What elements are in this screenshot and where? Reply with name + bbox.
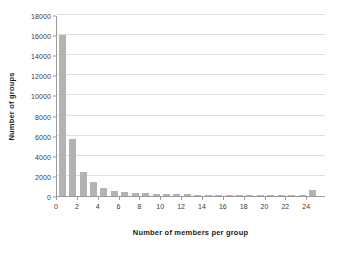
- bar: [153, 194, 160, 196]
- x-tick-label: 16: [219, 203, 227, 210]
- bar: [194, 195, 201, 196]
- y-axis-ticks: 0200040006000800010000120001400016000180…: [0, 16, 56, 197]
- bar: [299, 195, 306, 196]
- y-tick-label: 14000: [31, 53, 51, 60]
- x-tick-mark: [223, 197, 224, 200]
- x-tick-mark: [119, 197, 120, 200]
- x-tick-label: 4: [96, 203, 100, 210]
- x-axis-ticks: 024681012141618202224: [56, 197, 325, 213]
- bar: [163, 194, 170, 196]
- x-tick-mark: [244, 197, 245, 200]
- x-tick-mark: [160, 197, 161, 200]
- x-tick-label: 0: [54, 203, 58, 210]
- bar: [288, 195, 295, 196]
- bar: [184, 194, 191, 196]
- x-tick-mark: [98, 197, 99, 200]
- y-tick-label: 6000: [35, 133, 51, 140]
- bar: [100, 188, 107, 196]
- y-tick-label: 10000: [31, 93, 51, 100]
- x-tick-mark: [306, 197, 307, 200]
- bar: [278, 195, 285, 196]
- x-tick-label: 12: [177, 203, 185, 210]
- x-tick-label: 14: [198, 203, 206, 210]
- bar: [111, 191, 118, 196]
- bar: [90, 182, 97, 196]
- bar: [69, 139, 76, 196]
- bar: [236, 195, 243, 196]
- plot-area: [56, 16, 325, 197]
- bar: [142, 193, 149, 196]
- histogram-figure: Number of groups 02000400060008000100001…: [0, 0, 347, 254]
- x-tick-label: 8: [137, 203, 141, 210]
- y-tick-label: 8000: [35, 113, 51, 120]
- x-tick-mark: [56, 197, 57, 200]
- bar: [246, 195, 253, 196]
- x-tick-label: 18: [240, 203, 248, 210]
- bar: [80, 172, 87, 196]
- bar: [132, 193, 139, 196]
- bar-series: [57, 16, 325, 196]
- x-tick-label: 24: [302, 203, 310, 210]
- y-tick-label: 12000: [31, 73, 51, 80]
- bar: [257, 195, 264, 196]
- y-tick-label: 0: [47, 194, 51, 201]
- x-tick-label: 6: [117, 203, 121, 210]
- bar: [121, 192, 128, 196]
- y-tick-label: 2000: [35, 173, 51, 180]
- bar: [267, 195, 274, 196]
- x-tick-label: 2: [75, 203, 79, 210]
- x-tick-mark: [139, 197, 140, 200]
- x-tick-mark: [285, 197, 286, 200]
- bar: [215, 195, 222, 196]
- y-tick-label: 16000: [31, 33, 51, 40]
- y-tick-label: 18000: [31, 13, 51, 20]
- x-tick-mark: [77, 197, 78, 200]
- bar: [226, 195, 233, 196]
- bar: [173, 194, 180, 196]
- bar: [205, 195, 212, 196]
- x-tick-label: 10: [156, 203, 164, 210]
- x-axis-title: Number of members per group: [56, 228, 325, 237]
- x-tick-label: 22: [281, 203, 289, 210]
- gridline: [57, 14, 325, 15]
- x-tick-mark: [265, 197, 266, 200]
- bar: [309, 190, 316, 196]
- x-tick-mark: [181, 197, 182, 200]
- x-tick-label: 20: [261, 203, 269, 210]
- y-tick-label: 4000: [35, 153, 51, 160]
- bar: [59, 35, 66, 196]
- x-tick-mark: [202, 197, 203, 200]
